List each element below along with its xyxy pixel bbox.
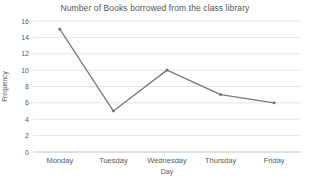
x-category-label: Thursday — [205, 156, 237, 165]
y-tick-label: 6 — [25, 99, 29, 106]
x-category-label: Friday — [264, 156, 285, 165]
data-point-marker — [166, 69, 169, 72]
data-point-marker — [219, 93, 222, 96]
data-point-marker — [273, 101, 276, 104]
y-tick-label: 14 — [21, 34, 29, 41]
y-tick-label: 0 — [25, 149, 29, 156]
y-tick-label: 10 — [21, 67, 29, 74]
plot-area: 0246810121416MondayTuesdayWednesdayThurs… — [0, 0, 310, 182]
x-category-label: Wednesday — [147, 156, 187, 165]
x-axis-title: Day — [33, 168, 301, 175]
line-chart: Number of Books borrowed from the class … — [0, 0, 310, 182]
y-tick-label: 16 — [21, 18, 29, 25]
y-tick-label: 2 — [25, 132, 29, 139]
data-point-marker — [58, 28, 61, 31]
y-tick-label: 12 — [21, 50, 29, 57]
data-point-marker — [112, 110, 115, 113]
y-tick-label: 4 — [25, 116, 29, 123]
x-category-label: Tuesday — [99, 156, 128, 165]
x-category-label: Monday — [46, 156, 73, 165]
y-tick-label: 8 — [25, 83, 29, 90]
